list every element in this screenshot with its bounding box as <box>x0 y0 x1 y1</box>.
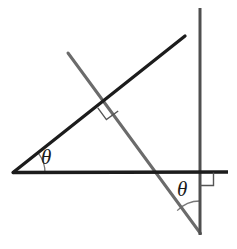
theta-label-left: θ <box>41 147 51 168</box>
rising-ray <box>13 36 185 173</box>
right-angle-mark-axes <box>200 173 214 186</box>
transversal-line <box>68 53 201 234</box>
diagram-canvas <box>0 0 237 249</box>
horizontal-baseline <box>13 172 228 173</box>
theta-label-right: θ <box>177 179 187 200</box>
geometry-figure: θ θ <box>0 0 237 249</box>
